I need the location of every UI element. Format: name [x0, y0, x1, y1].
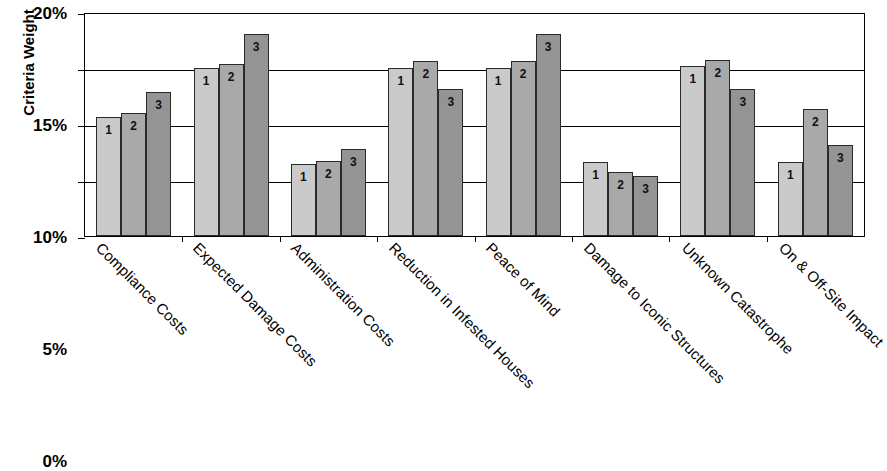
- bar-group: 123: [572, 14, 669, 236]
- bar-label: 1: [487, 75, 510, 87]
- bar-group: 123: [475, 14, 572, 236]
- bar-label: 1: [681, 73, 704, 85]
- bar-label: 1: [584, 169, 607, 181]
- bar: 1: [291, 164, 316, 236]
- x-axis-label: Peace of Mind: [483, 239, 564, 320]
- bar-label: 3: [245, 41, 268, 53]
- x-axis-label: Unknown Catastrophe: [679, 239, 797, 357]
- bar-label: 2: [220, 71, 243, 83]
- bar-label: 3: [439, 96, 462, 108]
- bar: 1: [194, 68, 219, 236]
- y-axis-tick: 5%: [78, 182, 85, 183]
- bar: 3: [633, 176, 658, 236]
- bar-label: 3: [147, 99, 170, 111]
- bar-label: 3: [342, 156, 365, 168]
- bar-label: 2: [706, 67, 729, 79]
- x-axis-label: Compliance Costs: [93, 239, 192, 338]
- bar: 2: [803, 109, 828, 236]
- bar-label: 1: [779, 169, 802, 181]
- bar: 3: [341, 149, 366, 236]
- bar-label: 2: [609, 179, 632, 191]
- bar-label: 1: [97, 124, 120, 136]
- plot-area: 0%5%10%15%20% 123123123123123123123123: [84, 13, 865, 237]
- bar: 3: [244, 34, 269, 236]
- bar: 2: [413, 61, 438, 236]
- bar-label: 1: [292, 171, 315, 183]
- y-axis-tick: 15%: [78, 70, 85, 71]
- bar: 2: [121, 113, 146, 236]
- y-axis-tick: 10%: [78, 126, 85, 127]
- bar-label: 1: [195, 75, 218, 87]
- bar: 1: [680, 66, 705, 236]
- bar-label: 3: [731, 96, 754, 108]
- bar: 1: [96, 117, 121, 236]
- bar: 3: [438, 89, 463, 236]
- bar-label: 3: [634, 183, 657, 195]
- y-axis-tick-label: 20%: [33, 4, 67, 24]
- bar: 3: [730, 89, 755, 236]
- y-axis-tick-label: 10%: [33, 228, 67, 248]
- y-axis-tick-label: 0%: [42, 452, 67, 471]
- bar-group: 123: [182, 14, 279, 236]
- bar: 2: [705, 60, 730, 236]
- bar-label: 3: [829, 152, 852, 164]
- y-axis-tick-label: 15%: [33, 116, 67, 136]
- bar-label: 2: [122, 120, 145, 132]
- bar-label: 2: [414, 68, 437, 80]
- bar: 1: [583, 162, 608, 236]
- bar-label: 2: [804, 116, 827, 128]
- x-axis-label: On & Off-Site Impact: [776, 239, 887, 350]
- bar-group: 123: [377, 14, 474, 236]
- y-axis-tick-label: 5%: [42, 340, 67, 360]
- bar: 1: [388, 68, 413, 236]
- bar-label: 1: [389, 75, 412, 87]
- bar-label: 3: [537, 41, 560, 53]
- bar-groups: 123123123123123123123123: [85, 14, 864, 236]
- bar: 2: [511, 61, 536, 236]
- bar-group: 123: [85, 14, 182, 236]
- x-axis-labels: Compliance CostsExpected Damage CostsAdm…: [84, 239, 865, 439]
- bar: 2: [316, 161, 341, 236]
- bar-group: 123: [280, 14, 377, 236]
- bar: 1: [486, 68, 511, 236]
- bar: 3: [146, 92, 171, 236]
- bar: 2: [219, 64, 244, 236]
- bar-group: 123: [669, 14, 766, 236]
- bar-label: 2: [512, 68, 535, 80]
- bar: 3: [536, 34, 561, 236]
- bar-group: 123: [767, 14, 864, 236]
- x-axis-label: Administration Costs: [288, 239, 399, 350]
- bar: 1: [778, 162, 803, 236]
- bar-label: 2: [317, 168, 340, 180]
- bar: 2: [608, 172, 633, 236]
- y-axis-tick: 20%: [78, 14, 85, 15]
- bar: 3: [828, 145, 853, 236]
